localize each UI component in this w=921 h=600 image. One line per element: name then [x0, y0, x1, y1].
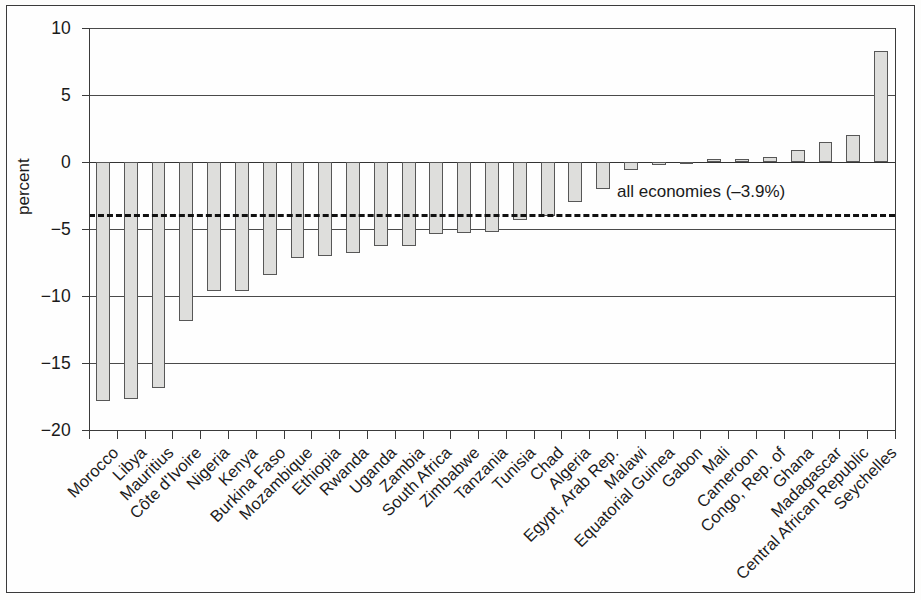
bar — [318, 162, 332, 256]
x-tick — [478, 430, 479, 439]
bar — [207, 162, 221, 291]
x-tick — [145, 430, 146, 439]
x-tick — [589, 430, 590, 439]
x-tick — [673, 430, 674, 439]
reference-line — [89, 214, 895, 217]
x-tick — [728, 430, 729, 439]
bar — [791, 150, 805, 162]
x-tick — [117, 430, 118, 439]
bar — [402, 162, 416, 246]
bar — [652, 162, 666, 165]
bar — [846, 135, 860, 162]
y-tick-0 — [82, 162, 89, 163]
bar — [596, 162, 610, 189]
x-tick — [534, 430, 535, 439]
bar — [707, 159, 721, 162]
bar — [152, 162, 166, 388]
y-tick-label-5: 5 — [0, 85, 71, 106]
x-tick — [450, 430, 451, 439]
x-tick — [395, 430, 396, 439]
y-tick--15 — [82, 363, 89, 364]
x-tick — [867, 430, 868, 439]
x-tick — [367, 430, 368, 439]
bar — [346, 162, 360, 253]
x-tick — [172, 430, 173, 439]
x-tick — [645, 430, 646, 439]
bar — [624, 162, 638, 170]
bar — [179, 162, 193, 321]
y-tick-5 — [82, 95, 89, 96]
x-tick — [423, 430, 424, 439]
bar — [735, 159, 749, 162]
x-tick — [839, 430, 840, 439]
bar — [374, 162, 388, 246]
x-tick — [895, 430, 896, 439]
y-tick-label--20: −20 — [0, 420, 71, 441]
plot-area: all economies (–3.9%) — [89, 28, 895, 430]
bar — [874, 51, 888, 162]
y-tick-label-10: 10 — [0, 18, 71, 39]
gridline--15 — [89, 363, 895, 364]
y-tick-label-0: 0 — [0, 152, 71, 173]
x-tick — [784, 430, 785, 439]
bar — [680, 162, 694, 164]
y-tick-label--15: −15 — [0, 353, 71, 374]
bar — [124, 162, 138, 399]
y-axis-line — [89, 28, 90, 430]
y-tick--10 — [82, 296, 89, 297]
bar — [568, 162, 582, 202]
x-tick — [756, 430, 757, 439]
x-tick — [339, 430, 340, 439]
bar — [429, 162, 443, 234]
gridline-5 — [89, 95, 895, 96]
x-tick — [256, 430, 257, 439]
x-tick — [561, 430, 562, 439]
y-tick--5 — [82, 229, 89, 230]
x-tick — [311, 430, 312, 439]
bar — [96, 162, 110, 401]
x-tick — [284, 430, 285, 439]
x-tick — [700, 430, 701, 439]
y-tick--20 — [82, 430, 89, 431]
bar — [263, 162, 277, 275]
bar — [235, 162, 249, 291]
x-tick — [89, 430, 90, 439]
y-tick-10 — [82, 28, 89, 29]
plot-right-edge — [895, 28, 896, 430]
bar — [291, 162, 305, 258]
gridline--10 — [89, 296, 895, 297]
y-tick-label--5: −5 — [0, 219, 71, 240]
bar — [541, 162, 555, 216]
x-tick — [617, 430, 618, 439]
chart-figure: percent all economies (–3.9%) 1050−5−10−… — [0, 0, 921, 600]
reference-line-label: all economies (–3.9%) — [617, 182, 785, 202]
bar — [485, 162, 499, 232]
y-tick-label--10: −10 — [0, 286, 71, 307]
x-axis-line — [89, 430, 895, 431]
x-tick — [812, 430, 813, 439]
gridline-10 — [89, 28, 895, 29]
x-tick — [228, 430, 229, 439]
bar — [763, 157, 777, 162]
bar — [513, 162, 527, 220]
x-tick — [200, 430, 201, 439]
x-tick — [506, 430, 507, 439]
bar — [457, 162, 471, 233]
bar — [819, 142, 833, 162]
